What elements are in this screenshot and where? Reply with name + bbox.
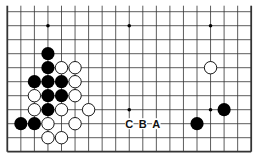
white-stone <box>69 61 81 73</box>
point-label-a: A <box>152 118 160 130</box>
white-stone <box>69 76 81 88</box>
black-stone <box>41 61 54 74</box>
star-point <box>127 24 131 28</box>
black-stone <box>28 75 41 88</box>
black-stone <box>41 47 54 60</box>
star-point <box>209 108 213 112</box>
star-point <box>127 108 131 112</box>
black-stone <box>41 89 54 102</box>
point-labels: CBA <box>125 118 160 130</box>
black-stone <box>41 103 54 116</box>
white-stone <box>55 61 67 73</box>
black-stone <box>190 117 203 130</box>
white-stone <box>69 118 81 130</box>
star-point <box>46 24 50 28</box>
white-stone <box>69 90 81 102</box>
white-stone <box>55 132 67 144</box>
point-label-b: B <box>139 118 147 130</box>
white-stone <box>28 90 40 102</box>
go-board-diagram: CBA <box>0 0 258 160</box>
white-stone <box>28 104 40 116</box>
white-stone <box>204 61 216 73</box>
black-stone <box>41 75 54 88</box>
white-stone <box>42 118 54 130</box>
black-stone <box>55 75 68 88</box>
black-stone <box>14 117 27 130</box>
black-stone <box>55 89 68 102</box>
star-point <box>209 24 213 28</box>
white-stone <box>82 104 94 116</box>
black-stone <box>218 103 231 116</box>
white-stone <box>55 104 67 116</box>
black-stone <box>28 117 41 130</box>
point-label-c: C <box>125 118 133 130</box>
white-stone <box>42 132 54 144</box>
